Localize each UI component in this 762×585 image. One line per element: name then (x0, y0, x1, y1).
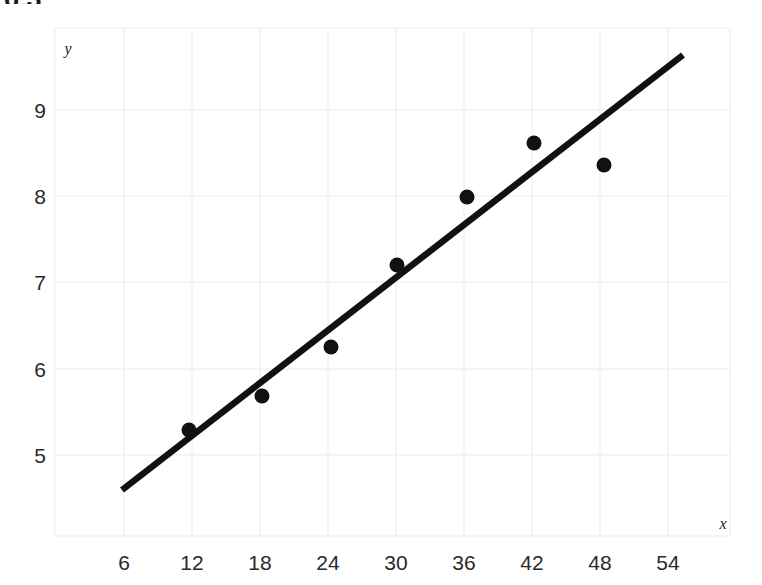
data-point (390, 258, 405, 273)
x-axis-tick-labels: 6 12 18 24 30 36 42 48 54 (118, 551, 680, 574)
y-axis-label: y (62, 40, 72, 58)
x-tick-label: 54 (656, 551, 680, 574)
y-tick-label: 7 (34, 271, 46, 294)
scatter-plot: 9 8 7 6 5 6 12 18 24 30 36 42 48 54 y x (0, 0, 762, 585)
data-point (597, 158, 612, 173)
x-tick-label: 36 (452, 551, 475, 574)
y-tick-label: 8 (34, 185, 46, 208)
x-tick-label: 12 (180, 551, 203, 574)
x-tick-label: 42 (520, 551, 543, 574)
data-point (527, 136, 542, 151)
figure-canvas: 6.3 (0, 0, 762, 585)
x-tick-label: 48 (588, 551, 611, 574)
x-tick-label: 30 (384, 551, 407, 574)
data-point (182, 423, 197, 438)
data-point (460, 190, 475, 205)
y-tick-label: 6 (34, 358, 46, 381)
y-tick-label: 9 (34, 99, 46, 122)
x-tick-label: 6 (118, 551, 130, 574)
y-tick-label: 5 (34, 444, 46, 467)
x-tick-label: 24 (316, 551, 340, 574)
x-tick-label: 18 (248, 551, 271, 574)
data-point (255, 389, 270, 404)
data-point (324, 340, 339, 355)
y-axis-tick-labels: 9 8 7 6 5 (34, 99, 46, 467)
x-axis-label: x (718, 515, 726, 532)
